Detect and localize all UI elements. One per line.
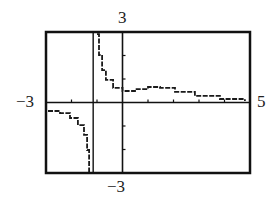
curve-branch — [48, 111, 89, 172]
curve-branch — [97, 34, 245, 101]
graph-viewport — [0, 0, 274, 199]
